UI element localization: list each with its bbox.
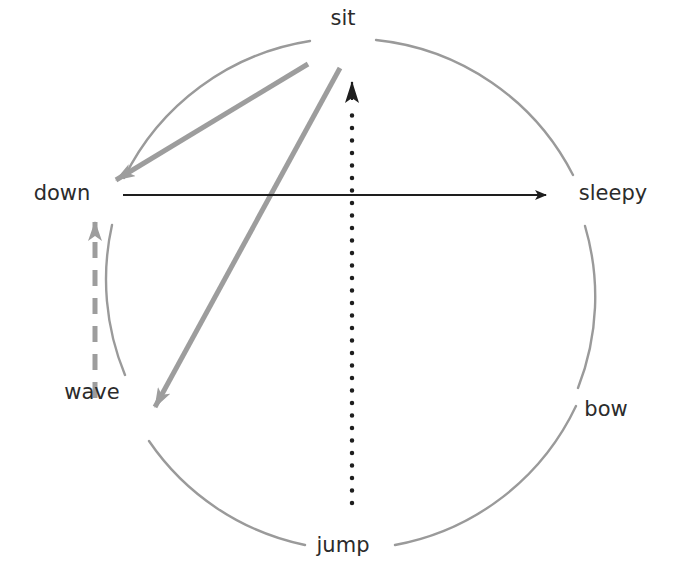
node-label-sleepy: sleepy <box>579 181 647 205</box>
node-label-down: down <box>34 181 91 205</box>
transition-edges <box>95 64 546 503</box>
node-label-jump: jump <box>316 533 370 557</box>
edge-sit-to-down <box>116 64 308 180</box>
edge-sit-to-wave <box>155 68 340 407</box>
node-label-bow: bow <box>584 397 627 421</box>
circle-arc-wave-down <box>106 225 125 375</box>
circle-arc-sit-sleepy <box>376 40 573 175</box>
circle-arc-bow-jump <box>395 406 576 545</box>
node-label-wave: wave <box>64 380 119 404</box>
circle-arc-jump-wave <box>149 441 305 545</box>
node-label-sit: sit <box>330 6 355 30</box>
circle-arc-sleepy-bow <box>578 226 595 388</box>
state-labels: sit down sleepy wave bow jump <box>34 6 648 557</box>
transition-diagram: sit down sleepy wave bow jump <box>0 0 683 579</box>
